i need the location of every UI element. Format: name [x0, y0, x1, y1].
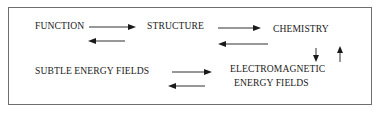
arrow-right-icon: [218, 25, 261, 31]
arrow-left-icon: [218, 41, 268, 47]
arrow-up-icon: [337, 46, 343, 62]
arrow-right-icon: [89, 24, 136, 30]
arrow-right-icon: [172, 69, 212, 75]
arrow-left-icon: [88, 38, 125, 44]
diagram-arrows: [0, 0, 381, 117]
arrow-left-icon: [168, 83, 205, 89]
arrow-down-icon: [313, 48, 319, 62]
